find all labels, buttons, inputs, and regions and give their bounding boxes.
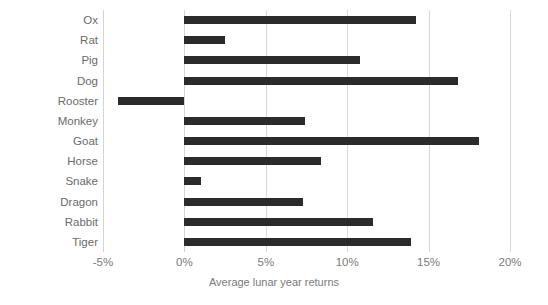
bar-monkey[interactable] bbox=[184, 117, 304, 125]
x-axis-title: Average lunar year returns bbox=[0, 276, 548, 288]
category-axis: OxRatPigDogRoosterMonkeyGoatHorseSnakeDr… bbox=[0, 10, 98, 252]
x-tick-10%: 10% bbox=[336, 256, 359, 268]
bar-row bbox=[103, 10, 510, 30]
plot-area bbox=[103, 10, 510, 252]
category-label-ox: Ox bbox=[2, 14, 98, 26]
bar-row bbox=[103, 30, 510, 50]
x-tick-5%: 5% bbox=[257, 256, 274, 268]
bar-row bbox=[103, 111, 510, 131]
x-tick-20%: 20% bbox=[498, 256, 521, 268]
bar-goat[interactable] bbox=[184, 137, 479, 145]
bar-snake[interactable] bbox=[184, 177, 200, 185]
category-label-tiger: Tiger bbox=[2, 236, 98, 248]
category-label-monkey: Monkey bbox=[2, 115, 98, 127]
bar-row bbox=[103, 151, 510, 171]
bar-row bbox=[103, 212, 510, 232]
bar-row bbox=[103, 171, 510, 191]
bar-row bbox=[103, 131, 510, 151]
category-label-horse: Horse bbox=[2, 155, 98, 167]
bar-rat[interactable] bbox=[184, 36, 225, 44]
bar-rooster[interactable] bbox=[118, 97, 185, 105]
x-tick-15%: 15% bbox=[417, 256, 440, 268]
category-label-dragon: Dragon bbox=[2, 196, 98, 208]
bar-row bbox=[103, 232, 510, 252]
bar-row bbox=[103, 192, 510, 212]
bar-rabbit[interactable] bbox=[184, 218, 373, 226]
x-axis-tick-labels: -5%0%5%10%15%20% bbox=[103, 256, 510, 272]
x-tick--5%: -5% bbox=[93, 256, 113, 268]
bar-row bbox=[103, 50, 510, 70]
bar-horse[interactable] bbox=[184, 157, 321, 165]
category-label-snake: Snake bbox=[2, 175, 98, 187]
bar-ox[interactable] bbox=[184, 16, 415, 24]
bar-tiger[interactable] bbox=[184, 238, 410, 246]
category-label-rat: Rat bbox=[2, 34, 98, 46]
category-label-goat: Goat bbox=[2, 135, 98, 147]
bar-dragon[interactable] bbox=[184, 198, 303, 206]
bar-row bbox=[103, 71, 510, 91]
category-label-rooster: Rooster bbox=[2, 95, 98, 107]
category-label-dog: Dog bbox=[2, 75, 98, 87]
bar-dog[interactable] bbox=[184, 77, 458, 85]
bar-pig[interactable] bbox=[184, 56, 360, 64]
bar-row bbox=[103, 91, 510, 111]
gridline-20% bbox=[510, 10, 511, 252]
x-tick-0%: 0% bbox=[176, 256, 193, 268]
category-label-pig: Pig bbox=[2, 54, 98, 66]
category-label-rabbit: Rabbit bbox=[2, 216, 98, 228]
bar-chart: OxRatPigDogRoosterMonkeyGoatHorseSnakeDr… bbox=[0, 0, 548, 305]
